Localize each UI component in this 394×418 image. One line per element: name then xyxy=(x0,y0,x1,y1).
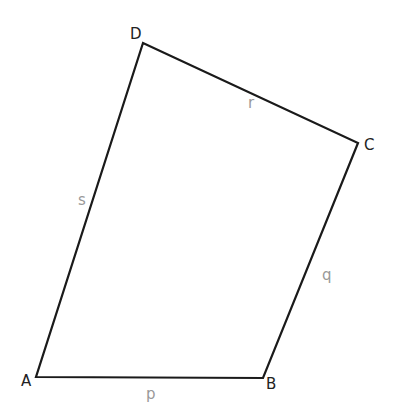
quadrilateral-shape xyxy=(36,43,358,378)
side-label-s: s xyxy=(78,191,86,209)
vertex-label-a: A xyxy=(21,372,32,390)
side-label-q: q xyxy=(322,266,332,284)
vertex-label-c: C xyxy=(364,136,374,154)
quadrilateral-diagram: A B C D p q r s xyxy=(0,0,394,418)
side-label-r: r xyxy=(248,94,255,112)
side-label-p: p xyxy=(146,385,156,403)
vertex-label-d: D xyxy=(130,25,142,43)
vertex-label-b: B xyxy=(266,375,276,393)
